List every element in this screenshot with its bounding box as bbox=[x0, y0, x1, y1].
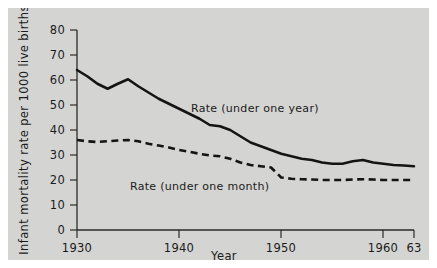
chart-figure: 0 10 20 30 40 50 60 70 80 1930 1940 1950… bbox=[8, 8, 429, 260]
y-tick-label-60: 60 bbox=[50, 73, 65, 87]
x-tick-label-1960: 1960 bbox=[368, 241, 398, 255]
y-axis-ticks bbox=[70, 30, 77, 230]
y-tick-label-20: 20 bbox=[50, 173, 65, 187]
series-label-under-one-month: Rate (under one month) bbox=[130, 180, 269, 193]
y-tick-label-80: 80 bbox=[50, 23, 65, 37]
y-tick-label-40: 40 bbox=[50, 123, 65, 137]
y-tick-label-70: 70 bbox=[50, 48, 65, 62]
x-axis-ticks bbox=[77, 230, 414, 238]
series-label-under-one-year: Rate (under one year) bbox=[191, 102, 319, 115]
line-chart: 0 10 20 30 40 50 60 70 80 1930 1940 1950… bbox=[8, 8, 429, 260]
x-tick-label-63: 63 bbox=[406, 241, 421, 255]
x-tick-label-1940: 1940 bbox=[164, 241, 194, 255]
y-axis-title: Infant mortality rate per 1000 live birt… bbox=[17, 8, 31, 255]
y-tick-label-30: 30 bbox=[50, 148, 65, 162]
y-tick-label-0: 0 bbox=[57, 223, 65, 237]
x-tick-label-1930: 1930 bbox=[62, 241, 92, 255]
x-tick-label-1950: 1950 bbox=[266, 241, 296, 255]
y-tick-label-50: 50 bbox=[50, 98, 65, 112]
y-tick-label-10: 10 bbox=[50, 198, 65, 212]
series-line-under-one-year bbox=[77, 70, 414, 166]
x-axis-title: Year bbox=[210, 249, 237, 260]
